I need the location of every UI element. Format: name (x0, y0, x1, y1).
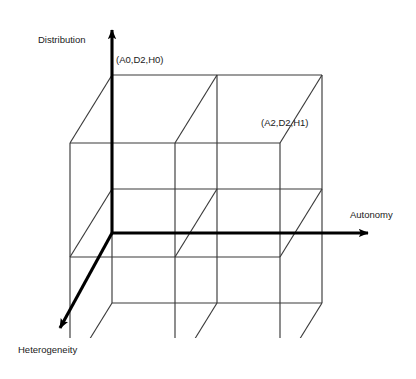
cube-diagram-svg (0, 0, 416, 379)
figure-canvas: Distribution Autonomy Heterogeneity (A0,… (0, 0, 416, 379)
heterogeneity-axis (60, 233, 112, 328)
axis-label-heterogeneity: Heterogeneity (18, 344, 77, 355)
axis-label-distribution: Distribution (38, 34, 86, 45)
figure-caption (0, 375, 416, 379)
vertex-label-a2d2h1: (A2,D2,H1) (261, 117, 309, 128)
axis-label-autonomy: Autonomy (350, 209, 393, 220)
vertex-label-a0d2h0: (A0,D2,H0) (116, 54, 164, 65)
